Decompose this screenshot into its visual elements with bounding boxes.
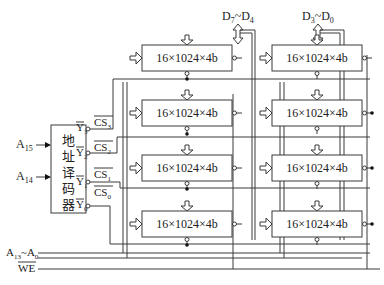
data-arrow-icon: [311, 35, 323, 45]
memory-chip-low-3: 16×1024×4b: [260, 201, 374, 245]
cs-bubble: [185, 72, 189, 76]
data-arrow-icon: [311, 201, 323, 211]
high-data-bus-label: D7~D4: [222, 9, 254, 25]
svg-text:D7~D4: D7~D4: [222, 9, 254, 25]
svg-text:CS2: CS2: [94, 141, 111, 156]
y3-bubble: [86, 127, 90, 131]
we-bubble: [233, 111, 237, 115]
cs-bubble: [315, 127, 319, 131]
cs2-label: CS2: [94, 141, 113, 156]
address-arrow-icon: [260, 107, 272, 119]
cs-bubble: [315, 182, 319, 186]
decoder-char-2: 址: [62, 149, 75, 164]
high-data-bus-arrow: [233, 24, 243, 44]
address-bus: A13~A0: [6, 246, 370, 261]
address-arrow-icon: [130, 107, 142, 119]
cs-bubble: [185, 182, 189, 186]
decoder-char-1: 地: [62, 133, 75, 148]
junction-dot: [185, 243, 189, 247]
chip-label: 16×1024×4b: [286, 161, 348, 175]
svg-text:D3~D0: D3~D0: [302, 9, 334, 25]
chip-label: 16×1024×4b: [156, 51, 218, 65]
we-bubble: [363, 56, 367, 60]
memory-chip-high-0: 16×1024×4b: [130, 35, 242, 81]
data-arrow-icon: [311, 90, 323, 100]
we-bubble: [233, 166, 237, 170]
input-a14: A14: [16, 169, 51, 185]
we-bubble: [233, 222, 237, 226]
we-bubble: [233, 56, 237, 60]
junction-dot: [185, 187, 189, 191]
address-feed-left: [123, 82, 127, 258]
memory-expansion-diagram: D7~D4 D3~D0 地 址 译 码 器 A15 A14 Y3 Y2 Y1: [0, 0, 384, 285]
svg-text:CS1: CS1: [94, 168, 111, 183]
we-bubble: [363, 166, 367, 170]
data-arrow-icon: [181, 201, 193, 211]
chip-column-high: 16×1024×4b16×1024×4b16×1024×4b16×1024×4b: [130, 35, 242, 247]
y2-bubble: [86, 151, 90, 155]
memory-chip-low-0: 16×1024×4b: [260, 35, 372, 79]
address-arrow-icon: [260, 218, 272, 230]
we-bubble: [363, 111, 367, 115]
cs-bubble: [185, 127, 189, 131]
chip-label: 16×1024×4b: [286, 106, 348, 120]
decoder-char-4: 码: [62, 181, 75, 196]
address-arrow-icon: [260, 52, 272, 64]
svg-text:A14: A14: [16, 169, 33, 185]
junction-dot: [370, 222, 374, 226]
chip-column-low: 16×1024×4b16×1024×4b16×1024×4b16×1024×4b: [260, 35, 374, 245]
cs1-label: CS1: [94, 168, 113, 183]
input-a15: A15: [16, 137, 51, 153]
junction-dot: [370, 111, 374, 115]
decoder-char-3: 译: [62, 165, 75, 180]
decoder-char-5: 器: [62, 197, 75, 212]
data-arrow-icon: [181, 35, 193, 45]
cs-bubble: [185, 238, 189, 242]
low-data-bus-label: D3~D0: [302, 9, 334, 25]
cs-bubble: [315, 238, 319, 242]
chip-label: 16×1024×4b: [286, 217, 348, 231]
address-arrow-icon: [130, 52, 142, 64]
svg-text:WE: WE: [18, 262, 35, 274]
memory-chip-high-2: 16×1024×4b: [130, 145, 242, 191]
memory-chip-low-1: 16×1024×4b: [260, 90, 374, 134]
memory-chip-low-2: 16×1024×4b: [260, 145, 374, 189]
svg-text:A15: A15: [16, 137, 33, 153]
svg-text:CS0: CS0: [94, 186, 111, 201]
data-arrow-icon: [181, 90, 193, 100]
memory-chip-high-1: 16×1024×4b: [130, 90, 242, 136]
junction-dot: [370, 166, 374, 170]
memory-chip-high-3: 16×1024×4b: [130, 201, 242, 247]
data-arrow-icon: [181, 145, 193, 155]
address-arrow-icon: [130, 218, 142, 230]
junction-dot: [185, 132, 189, 136]
data-arrow-icon: [311, 145, 323, 155]
chip-label: 16×1024×4b: [156, 106, 218, 120]
chip-label: 16×1024×4b: [286, 51, 348, 65]
chip-label: 16×1024×4b: [156, 217, 218, 231]
address-arrow-icon: [130, 162, 142, 174]
y0-bubble: [86, 204, 90, 208]
cs-bubble: [315, 72, 319, 76]
we-bubble: [363, 222, 367, 226]
cs0-label: CS0: [94, 186, 113, 201]
junction-dot: [185, 77, 189, 81]
y1-bubble: [86, 180, 90, 184]
chip-label: 16×1024×4b: [156, 161, 218, 175]
address-arrow-icon: [260, 162, 272, 174]
svg-text:A13~A0: A13~A0: [6, 246, 39, 261]
write-enable-line: WE: [18, 262, 380, 274]
